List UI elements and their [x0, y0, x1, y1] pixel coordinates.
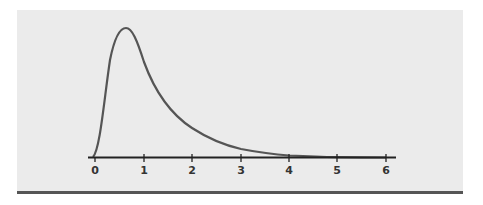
tick-label-2: 2 — [188, 164, 196, 177]
x-tick-labels: 0 1 2 3 4 5 6 — [91, 164, 390, 177]
density-curve — [93, 28, 386, 158]
tick-label-6: 6 — [382, 164, 390, 177]
tick-label-1: 1 — [140, 164, 148, 177]
tick-label-3: 3 — [237, 164, 245, 177]
chart-plot: 0 1 2 3 4 5 6 — [0, 0, 483, 205]
tick-label-0: 0 — [91, 164, 99, 177]
tick-label-4: 4 — [285, 164, 293, 177]
tick-label-5: 5 — [333, 164, 341, 177]
